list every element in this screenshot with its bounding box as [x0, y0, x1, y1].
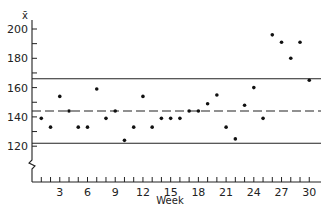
- x-tick-label: 9: [112, 186, 119, 199]
- data-point: [95, 87, 99, 91]
- y-tick-label: 160: [7, 82, 28, 95]
- data-point: [243, 103, 247, 107]
- data-point: [187, 109, 191, 113]
- data-point: [86, 125, 90, 129]
- y-tick-label: 140: [7, 111, 28, 124]
- data-point: [197, 109, 201, 113]
- data-point: [234, 137, 238, 141]
- data-point: [307, 78, 311, 82]
- data-point: [289, 57, 293, 61]
- x-tick-label: 30: [302, 186, 316, 199]
- data-point: [67, 109, 71, 113]
- data-point: [252, 86, 256, 90]
- data-point: [160, 117, 164, 121]
- y-tick-label: 180: [7, 52, 28, 65]
- x-tick-label: 24: [247, 186, 261, 199]
- x-tick-label: 18: [191, 186, 205, 199]
- control-chart: 12014016018020036912151821242730 x̄ Week: [0, 0, 330, 213]
- x-tick-label: 6: [84, 186, 91, 199]
- data-point: [169, 117, 173, 121]
- data-point: [113, 109, 117, 113]
- data-point: [40, 117, 44, 121]
- axes: 12014016018020036912151821242730: [7, 20, 321, 199]
- data-point: [104, 117, 108, 121]
- data-point: [178, 117, 182, 121]
- data-point: [215, 93, 219, 97]
- data-point: [141, 95, 145, 99]
- data-point: [76, 125, 80, 129]
- data-points: [40, 33, 312, 142]
- data-point: [150, 125, 154, 129]
- x-axis-label: Week: [156, 195, 184, 206]
- data-point: [206, 102, 210, 106]
- x-tick-label: 21: [219, 186, 233, 199]
- x-tick-label: 3: [56, 186, 63, 199]
- data-point: [123, 139, 127, 143]
- data-point: [224, 125, 228, 129]
- y-tick-label: 120: [7, 140, 28, 153]
- data-point: [49, 125, 53, 129]
- data-point: [298, 40, 302, 44]
- y-tick-label: 200: [7, 23, 28, 36]
- x-tick-label: 12: [136, 186, 150, 199]
- data-point: [271, 33, 275, 37]
- reference-lines: [32, 79, 321, 143]
- data-point: [132, 125, 136, 129]
- data-point: [58, 95, 62, 99]
- data-point: [280, 40, 284, 44]
- data-point: [261, 117, 265, 121]
- x-tick-label: 27: [275, 186, 289, 199]
- y-axis-line: [29, 20, 35, 182]
- y-axis-label: x̄: [22, 10, 28, 21]
